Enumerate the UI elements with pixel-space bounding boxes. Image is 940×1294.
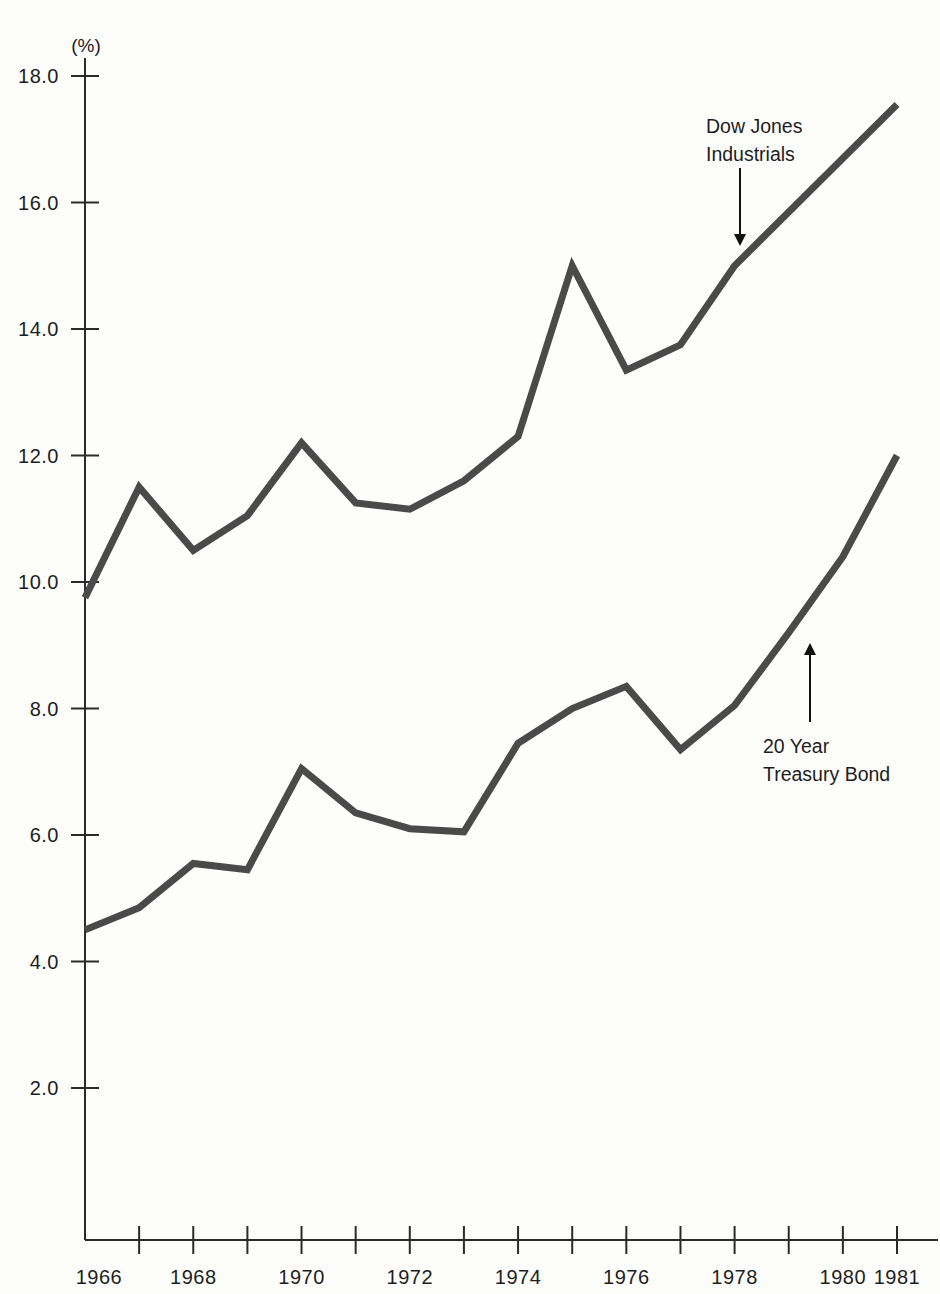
- x-tick-label-1980: 1980: [820, 1266, 867, 1288]
- chart-container: 18.016.014.012.010.08.06.04.02.0 1966196…: [0, 0, 940, 1294]
- treasury-bond-annotation-line-1: 20 Year: [763, 735, 830, 757]
- annotations-group: Dow JonesIndustrials20 YearTreasury Bond: [706, 115, 890, 785]
- y-tick-label-18.0: 18.0: [18, 65, 59, 87]
- percent-unit-label: (%): [71, 35, 101, 56]
- x-tick-label-1972: 1972: [387, 1266, 434, 1288]
- series-line-treasury-bond-20y: [85, 456, 897, 930]
- y-tick-label-16.0: 16.0: [18, 192, 59, 214]
- y-tick-label-10.0: 10.0: [18, 571, 59, 593]
- x-axis-tick-labels: 196619681970197219741976197819801981: [76, 1266, 921, 1288]
- y-tick-label-4.0: 4.0: [30, 951, 59, 973]
- dow-jones-arrow-head-down-icon: [734, 234, 746, 246]
- series-line-dow-jones-industrials: [85, 104, 897, 597]
- line-chart: 18.016.014.012.010.08.06.04.02.0 1966196…: [0, 0, 940, 1294]
- x-tick-label-1976: 1976: [603, 1266, 650, 1288]
- y-tick-label-2.0: 2.0: [30, 1077, 59, 1099]
- x-tick-label-1966: 1966: [76, 1266, 123, 1288]
- y-tick-label-8.0: 8.0: [30, 698, 59, 720]
- x-tick-label-1981: 1981: [874, 1266, 921, 1288]
- y-tick-label-14.0: 14.0: [18, 318, 59, 340]
- y-axis-tick-labels: 18.016.014.012.010.08.06.04.02.0: [18, 65, 59, 1099]
- y-axis-unit-label: (%): [71, 35, 101, 56]
- treasury-bond-annotation-line-2: Treasury Bond: [763, 763, 890, 785]
- x-tick-label-1970: 1970: [278, 1266, 325, 1288]
- dow-jones-annotation-line-1: Dow Jones: [706, 115, 803, 137]
- x-tick-label-1974: 1974: [495, 1266, 542, 1288]
- dow-jones-annotation-line-2: Industrials: [706, 143, 795, 165]
- data-series-group: [85, 104, 897, 929]
- treasury-bond-arrow-head-up-icon: [804, 643, 816, 655]
- y-tick-label-12.0: 12.0: [18, 445, 59, 467]
- x-tick-label-1968: 1968: [170, 1266, 217, 1288]
- y-tick-label-6.0: 6.0: [30, 824, 59, 846]
- x-tick-label-1978: 1978: [711, 1266, 758, 1288]
